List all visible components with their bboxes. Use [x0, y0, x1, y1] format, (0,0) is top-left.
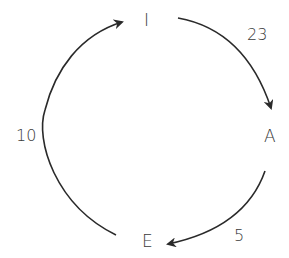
- node-a-label: A: [264, 128, 276, 145]
- node-i-label: I: [144, 12, 149, 29]
- edge-a-to-e-arrow: [168, 171, 265, 244]
- edge-i-to-a-label: 23: [247, 27, 267, 43]
- edge-e-to-i-label: 10: [16, 128, 36, 144]
- edge-a-to-e-label: 5: [234, 228, 244, 244]
- node-e-label: E: [142, 233, 153, 250]
- cycle-diagram-canvas: [0, 0, 289, 258]
- edge-e-to-i-arrow: [43, 22, 122, 235]
